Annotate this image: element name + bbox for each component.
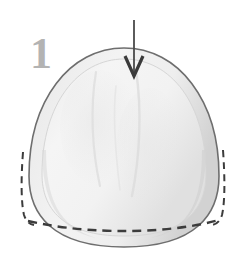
- step-number-label: 1: [30, 29, 52, 78]
- step-diagram-figure: 1: [0, 0, 246, 271]
- texture-patch-right: [116, 88, 184, 212]
